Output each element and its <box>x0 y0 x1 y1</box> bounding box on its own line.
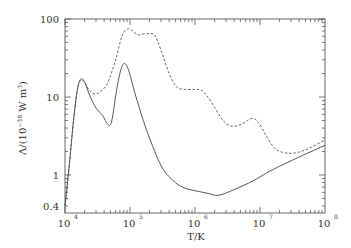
x-axis-label: T/K <box>187 231 205 242</box>
svg-text:7: 7 <box>269 213 273 220</box>
x-tick-labels: 104105106107108 <box>58 213 338 229</box>
y-tick-label: 10 <box>46 92 59 103</box>
x-tick-label: 10 <box>253 218 266 229</box>
x-tick-label: 10 <box>318 218 331 229</box>
y-tick-label: 1 <box>53 170 59 181</box>
y-tick-labels: 1001010.4 <box>40 14 59 212</box>
chart-canvas: 104105106107108 1001010.4 T/K Λ/(10−38 W… <box>0 0 351 248</box>
plot-frame <box>65 19 325 213</box>
svg-text:4: 4 <box>74 213 78 220</box>
x-tick-label: 10 <box>188 218 201 229</box>
x-tick-label: 10 <box>123 218 136 229</box>
y-axis-label: Λ/(10−38 W m3) <box>16 81 28 156</box>
x-tick-label: 10 <box>58 218 71 229</box>
svg-text:8: 8 <box>334 213 338 220</box>
svg-text:6: 6 <box>204 213 208 220</box>
y-tick-label: 0.4 <box>43 201 59 212</box>
solid-series-line <box>65 63 325 206</box>
svg-text:5: 5 <box>139 213 143 220</box>
axis-ticks <box>65 19 325 213</box>
y-tick-label: 100 <box>40 14 59 25</box>
